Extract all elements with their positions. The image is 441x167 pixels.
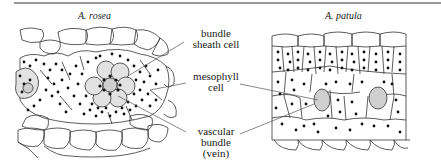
label-mesophyll-cell: mesophyll cell	[187, 71, 245, 93]
a-rosea-partial-vein	[16, 68, 39, 98]
label-vascular-bundle: vascular bundle (vein)	[187, 126, 245, 159]
a-patula-cross-section	[272, 32, 410, 150]
label-line: (vein)	[187, 148, 245, 159]
a-rosea-kranz-bundle	[85, 61, 135, 107]
label-line: cell	[187, 82, 245, 93]
a-patula-vein-2	[369, 87, 387, 109]
label-line: sheath cell	[187, 39, 245, 50]
label-bundle-sheath-cell: bundle sheath cell	[187, 28, 245, 50]
